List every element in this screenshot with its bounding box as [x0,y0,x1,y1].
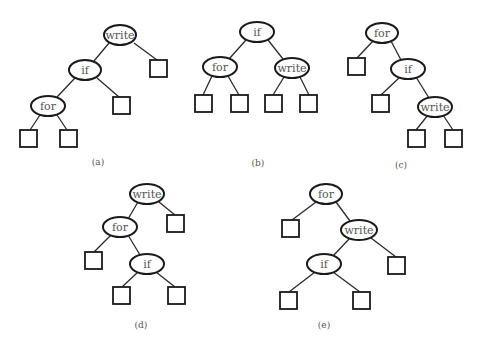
node-label: write [277,62,306,75]
node-if: if [307,254,341,274]
node-for: for [366,23,398,43]
node-if: if [130,254,164,274]
leaf-square-icon [353,292,370,309]
edge [229,40,246,59]
tree-caption: (a) [92,157,104,167]
leaf-square-icon [150,60,167,77]
tree-c: for if write (c) [348,23,462,170]
node-write: write [275,58,309,78]
edge [292,202,316,220]
edge [300,77,309,95]
edge [203,76,212,95]
edge [97,78,119,97]
leaf-square-icon [20,130,37,147]
node-label: for [212,61,229,74]
leaf-square-icon [168,287,185,304]
edge [128,202,138,219]
edge [30,115,40,130]
tree-caption: (d) [135,320,148,330]
node-label: if [320,258,329,271]
edge [371,238,396,257]
tree-b: if for write (b) [195,22,317,168]
node-label: write [132,188,161,201]
leaf-square-icon [372,95,389,112]
leaf-square-icon [85,252,102,269]
tree-d: write for if (d) [85,184,185,330]
node-if: if [69,60,101,80]
edge [391,41,401,60]
edge [94,235,111,252]
edge [134,43,157,60]
node-label: write [420,101,449,114]
node-if: if [391,59,425,79]
tree-e: for write if (e) [280,184,405,330]
edge [333,272,360,292]
edge [94,43,109,61]
node-for: for [103,217,137,237]
edge [416,77,429,98]
node-label: write [344,224,373,237]
edge [156,272,175,287]
leaf-square-icon [280,292,297,309]
edge [333,238,350,256]
leaf-square-icon [195,95,212,112]
node-label: for [112,221,129,234]
edge [336,202,350,221]
node-for: for [203,57,237,77]
node-for: for [310,184,342,204]
tree-caption: (e) [318,320,330,330]
node-label: for [374,27,391,40]
bst-figure: write if for (a) if for [0,0,479,348]
leaf-square-icon [265,95,282,112]
leaf-square-icon [231,95,248,112]
edge [268,40,283,59]
edge [159,202,175,215]
node-label: for [318,188,335,201]
node-label: if [143,258,152,271]
node-write: write [418,97,452,117]
edge [381,77,400,95]
node-write: write [341,220,377,240]
leaf-square-icon [388,257,405,274]
node-label: for [40,100,57,113]
node-if: if [240,22,274,42]
leaf-square-icon [348,58,365,75]
leaf-square-icon [408,130,425,147]
edge [357,41,373,58]
leaf-square-icon [445,130,462,147]
node-label: write [105,29,134,42]
edge [289,272,315,292]
node-label: if [81,64,90,77]
edge [122,272,138,287]
leaf-square-icon [167,215,184,232]
edge [57,78,75,97]
node-write: write [104,25,136,45]
node-for: for [31,96,65,116]
node-label: if [404,63,413,76]
edge [57,115,67,130]
node-write: write [130,184,164,204]
node-label: if [253,26,262,39]
tree-caption: (b) [252,158,265,168]
leaf-square-icon [282,220,299,237]
edge [228,76,239,95]
edge [443,115,453,130]
leaf-square-icon [300,95,317,112]
leaf-square-icon [60,130,77,147]
tree-a: write if for (a) [20,25,167,167]
edge [128,235,140,255]
tree-caption: (c) [395,160,407,170]
edge [273,77,284,95]
edge [416,115,428,130]
leaf-square-icon [113,287,130,304]
leaf-square-icon [113,97,130,114]
